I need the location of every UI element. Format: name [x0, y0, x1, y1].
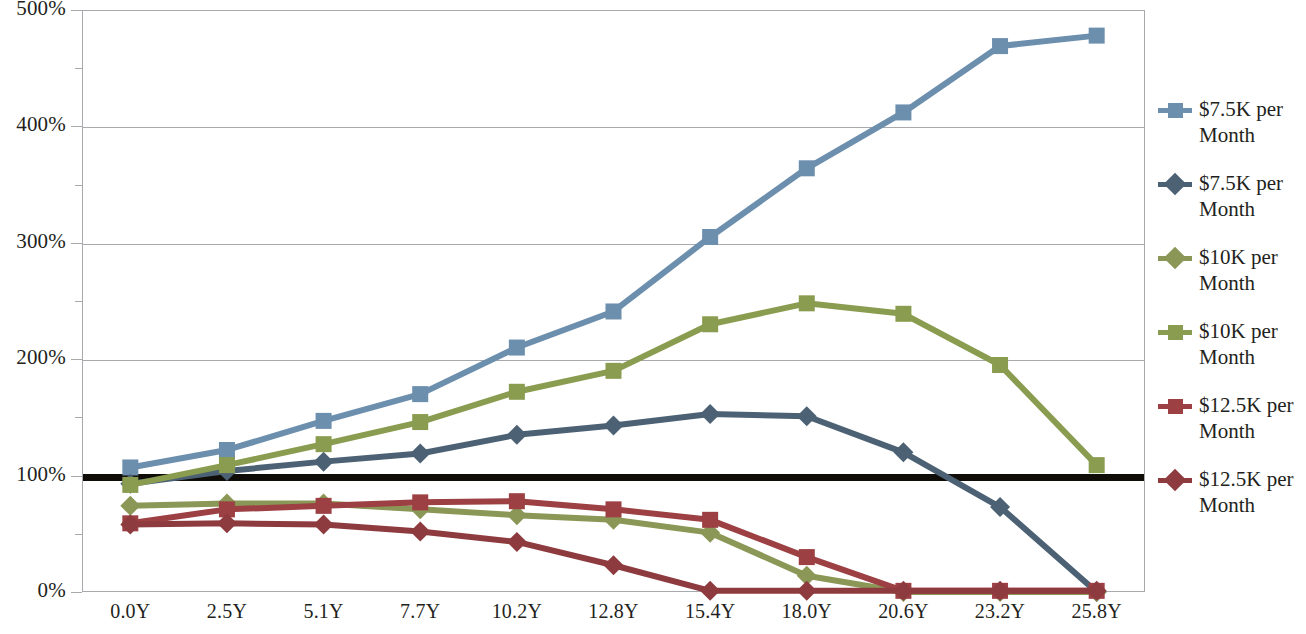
series-4 [122, 295, 1104, 493]
y-axis-tick [71, 10, 82, 11]
y-axis-label: 300% [0, 229, 66, 254]
data-point-marker [895, 104, 911, 120]
legend-label: $7.5K per Month [1199, 170, 1283, 222]
y-axis-tick [71, 476, 82, 477]
data-point-marker [604, 555, 624, 575]
data-point-marker [314, 452, 334, 472]
y-axis-tick [71, 359, 82, 360]
data-point-marker [799, 160, 815, 176]
legend-diamond-icon [1158, 468, 1192, 492]
data-point-marker [219, 457, 235, 473]
y-axis-label: 500% [0, 0, 66, 21]
data-point-marker [700, 404, 720, 424]
legend-label: $12.5K per Month [1199, 392, 1293, 444]
y-axis-minor-tick [75, 534, 82, 535]
y-axis-tick [71, 243, 82, 244]
data-point-marker [509, 384, 525, 400]
data-point-marker [702, 229, 718, 245]
data-point-marker [799, 295, 815, 311]
data-point-marker [507, 425, 527, 445]
legend-label: $10K per Month [1199, 318, 1278, 370]
legend-label: $12.5K per Month [1199, 466, 1293, 518]
data-point-marker [316, 436, 332, 452]
legend-entry[interactable]: $10K per Month [1158, 318, 1306, 372]
y-axis-tick [71, 592, 82, 593]
x-axis-label: 25.8Y [1037, 600, 1157, 623]
legend-square-icon [1158, 320, 1192, 344]
data-point-marker [412, 414, 428, 430]
series-line [130, 36, 1096, 468]
data-point-marker [799, 549, 815, 565]
legend-square-icon [1158, 394, 1192, 418]
chart-root: 0%100%200%300%400%500% 0.0Y2.5Y5.1Y7.7Y1… [0, 0, 1306, 634]
y-axis-minor-tick [75, 185, 82, 186]
data-point-marker [314, 514, 334, 534]
data-point-marker [412, 494, 428, 510]
legend-entry[interactable]: $7.5K per Month [1158, 96, 1306, 150]
y-axis-tick [71, 126, 82, 127]
series-plot [82, 10, 1145, 592]
data-point-marker [509, 340, 525, 356]
series-5 [122, 493, 1104, 599]
legend-label: $10K per Month [1199, 244, 1278, 296]
data-point-marker [120, 496, 140, 516]
data-point-marker [797, 581, 817, 601]
data-point-marker [797, 406, 817, 426]
data-point-marker [992, 38, 1008, 54]
data-point-marker [219, 442, 235, 458]
data-point-marker [1089, 28, 1105, 44]
legend-diamond-icon [1158, 246, 1192, 270]
y-axis-minor-tick [75, 301, 82, 302]
legend-diamond-icon [1158, 172, 1192, 196]
series-1 [122, 28, 1104, 476]
data-point-marker [412, 386, 428, 402]
data-point-marker [122, 459, 138, 475]
legend-label: $7.5K per Month [1199, 96, 1283, 148]
y-axis-label: 0% [0, 578, 66, 603]
data-point-marker [509, 493, 525, 509]
legend-entry[interactable]: $12.5K per Month [1158, 466, 1306, 520]
data-point-marker [122, 477, 138, 493]
y-axis-label: 100% [0, 462, 66, 487]
legend-entry[interactable]: $10K per Month [1158, 244, 1306, 298]
legend-square-icon [1158, 98, 1192, 122]
data-point-marker [316, 413, 332, 429]
y-axis-label: 200% [0, 345, 66, 370]
data-point-marker [992, 357, 1008, 373]
y-axis-label: 400% [0, 112, 66, 137]
y-axis-minor-tick [75, 68, 82, 69]
data-point-marker [702, 512, 718, 528]
data-point-marker [410, 443, 430, 463]
data-point-marker [606, 501, 622, 517]
data-point-marker [316, 498, 332, 514]
series-line [130, 303, 1096, 485]
data-point-marker [700, 581, 720, 601]
data-point-marker [507, 532, 527, 552]
data-point-marker [410, 521, 430, 541]
data-point-marker [606, 363, 622, 379]
data-point-marker [702, 316, 718, 332]
data-point-marker [1089, 457, 1105, 473]
chart-legend: $7.5K per Month$7.5K per Month$10K per M… [1158, 96, 1306, 540]
legend-entry[interactable]: $7.5K per Month [1158, 170, 1306, 224]
data-point-marker [895, 306, 911, 322]
legend-entry[interactable]: $12.5K per Month [1158, 392, 1306, 446]
y-axis-minor-tick [75, 417, 82, 418]
data-point-marker [606, 303, 622, 319]
data-point-marker [604, 416, 624, 436]
